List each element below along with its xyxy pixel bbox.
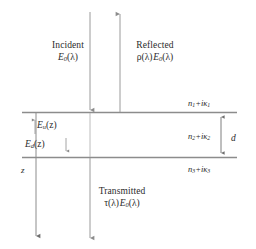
layer-3-index-label: n3+iκ3 — [188, 164, 210, 175]
transmitted-label: Transmitted — [99, 186, 146, 198]
internal-down-argument: (z) — [34, 139, 45, 149]
internal-field-up-label: Eu(z) — [37, 120, 57, 132]
transmitted-field-expression: τ(λ) E0(λ) — [99, 198, 146, 210]
layer-1-index-label: n1+iκ1 — [188, 98, 210, 109]
internal-up-argument: (z) — [46, 120, 57, 130]
reflection-coefficient: ρ(λ) — [137, 52, 153, 62]
layer-1-kappa-subscript: 1 — [207, 102, 210, 108]
transmitted-field-argument: (λ) — [129, 198, 140, 208]
z-axis-label: z — [21, 165, 25, 176]
layer-3-kappa-subscript: 3 — [207, 168, 210, 174]
incident-field-expression: E0(λ) — [52, 52, 84, 64]
layer-2-index-label: n2+iκ2 — [188, 131, 210, 142]
reflected-label-group: Reflected ρ(λ) E0(λ) — [136, 40, 173, 64]
transmission-coefficient: τ(λ) — [104, 198, 119, 208]
layer-2-kappa-subscript: 2 — [207, 135, 210, 141]
reflected-label: Reflected — [136, 40, 173, 52]
incident-label-group: Incident E0(λ) — [52, 40, 84, 64]
internal-field-down-label: Ed(z) — [25, 139, 45, 151]
incident-label: Incident — [52, 40, 84, 52]
reflected-field-argument: (λ) — [162, 52, 173, 62]
transmitted-label-group: Transmitted τ(λ) E0(λ) — [99, 186, 146, 210]
thickness-label: d — [231, 133, 236, 145]
reflected-field-expression: ρ(λ) E0(λ) — [136, 52, 173, 64]
thin-film-optics-diagram: Incident E0(λ) Reflected ρ(λ) E0(λ) Tran… — [0, 0, 256, 249]
incident-field-argument: (λ) — [67, 52, 78, 62]
